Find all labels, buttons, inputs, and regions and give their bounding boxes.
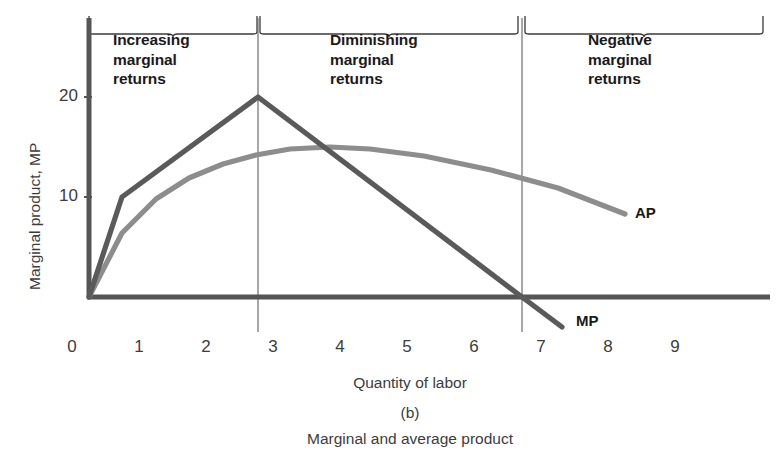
series-label-mp: MP — [576, 312, 599, 329]
x-tick-label-7: 7 — [526, 337, 556, 357]
y-tick-label-20: 20 — [44, 86, 78, 106]
region-label-increasing-marginal-returns: Increasing marginal returns — [113, 30, 243, 89]
region-line-1: Increasing — [113, 30, 243, 50]
region-label-diminishing-marginal-returns: Diminishing marginal returns — [330, 30, 470, 89]
x-axis-title: Quantity of labor — [290, 374, 530, 392]
region-line-2: marginal — [113, 50, 243, 70]
region-line-3: returns — [113, 69, 243, 89]
region-label-negative-marginal-returns: Negative marginal returns — [588, 30, 728, 89]
x-tick-label-1: 1 — [124, 337, 154, 357]
figure-panel-b: Increasing marginal returns Diminishing … — [0, 0, 776, 465]
y-axis-title: Marginal product, MP — [26, 143, 44, 290]
region-line-3: returns — [588, 69, 728, 89]
region-line-2: marginal — [588, 50, 728, 70]
x-tick-label-5: 5 — [392, 337, 422, 357]
x-tick-label-8: 8 — [593, 337, 623, 357]
region-line-1: Diminishing — [330, 30, 470, 50]
x-tick-label-6: 6 — [459, 337, 489, 357]
mp-curve — [89, 97, 562, 327]
region-line-1: Negative — [588, 30, 728, 50]
y-tick-label-10: 10 — [44, 186, 78, 206]
panel-label: (b) — [160, 404, 660, 422]
x-tick-label-2: 2 — [191, 337, 221, 357]
x-tick-label-0: 0 — [57, 337, 87, 357]
x-tick-label-9: 9 — [660, 337, 690, 357]
x-tick-label-3: 3 — [258, 337, 288, 357]
x-tick-label-4: 4 — [325, 337, 355, 357]
series-label-ap: AP — [635, 204, 656, 221]
region-line-3: returns — [330, 69, 470, 89]
figure-caption: Marginal and average product — [160, 430, 660, 448]
region-line-2: marginal — [330, 50, 470, 70]
